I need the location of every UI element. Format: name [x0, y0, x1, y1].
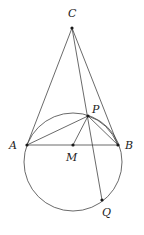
- label-C: C: [68, 7, 77, 20]
- point-C: [70, 26, 73, 29]
- geometry-diagram: C A B M P Q: [0, 0, 144, 235]
- point-A: [25, 143, 28, 146]
- label-Q: Q: [102, 206, 111, 219]
- segment-MP: [73, 116, 88, 145]
- label-A: A: [8, 139, 17, 152]
- label-P: P: [91, 103, 100, 116]
- point-M: [71, 143, 74, 146]
- point-B: [116, 143, 119, 146]
- segment-CB: [72, 28, 118, 145]
- label-M: M: [65, 151, 78, 164]
- segment-PB: [88, 116, 118, 145]
- segment-CA: [27, 28, 72, 145]
- point-P: [86, 114, 89, 117]
- label-B: B: [124, 139, 133, 152]
- point-Q: [100, 198, 103, 201]
